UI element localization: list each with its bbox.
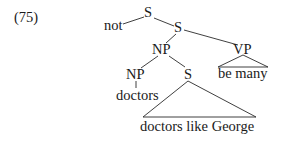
node-root-s: S (144, 4, 152, 20)
node-np-upper: NP (152, 41, 171, 57)
node-vp: VP (233, 41, 252, 57)
edge-inner-vp (184, 30, 238, 45)
edge-root-inner (154, 18, 174, 26)
example-number: (75) (14, 9, 38, 26)
syntax-tree: (75) not S S NP VP be many NP S doctors … (0, 0, 285, 142)
node-rel-s-yield: doctors like George (140, 118, 254, 134)
rel-s-triangle (143, 81, 256, 117)
edge-root-neg (123, 17, 144, 24)
node-neg: not (104, 17, 123, 33)
edge-np-rels (169, 56, 185, 67)
node-np-lower: NP (126, 66, 145, 82)
node-inner-s: S (174, 19, 182, 35)
node-rel-s: S (184, 66, 192, 82)
node-vp-yield: be many (218, 65, 268, 81)
node-np-lower-word: doctors (116, 87, 159, 103)
